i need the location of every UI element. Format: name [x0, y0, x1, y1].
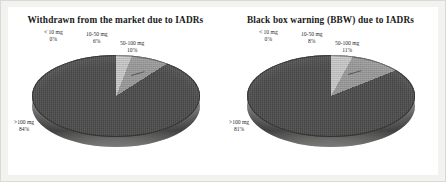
pie-label-50-100mg-pct: 10% — [120, 47, 144, 54]
chart-title-withdrawn: Withdrawn from the market due to IADRs — [8, 15, 223, 25]
pie-label-10-50mg: 10-50 mg 8% — [301, 31, 323, 45]
chart-panel-withdrawn: Withdrawn from the market due to IADRs <… — [8, 7, 223, 175]
pie-label-gt100mg-name: >100 mg — [14, 119, 34, 125]
pie-label-10-50mg-pct: 8% — [301, 38, 323, 45]
pie-label-lt10mg-name: < 10 mg — [259, 29, 278, 35]
pie-label-10-50mg-pct: 6% — [86, 38, 108, 45]
figure-canvas: Withdrawn from the market due to IADRs <… — [8, 7, 438, 175]
pie-chart-withdrawn — [30, 53, 202, 157]
pie-label-50-100mg: 50-100 mg 10% — [120, 40, 144, 54]
pie-label-50-100mg-name: 50-100 mg — [335, 40, 359, 46]
pie-label-50-100mg: 50-100 mg 11% — [335, 40, 359, 54]
pie-label-10-50mg-name: 10-50 mg — [86, 31, 108, 37]
pie-label-10-50mg-name: 10-50 mg — [301, 31, 323, 37]
pie-label-50-100mg-pct: 11% — [335, 47, 359, 54]
pie-label-50-100mg-name: 50-100 mg — [120, 40, 144, 46]
pie-label-lt10mg: < 10 mg 0% — [44, 29, 63, 43]
pie-label-gt100mg-name: >100 mg — [229, 119, 249, 125]
pie-slices — [32, 55, 200, 137]
pie-chart-bbw — [245, 53, 417, 157]
pie-label-gt100mg: >100 mg 81% — [229, 119, 249, 133]
pie-label-lt10mg-pct: 0% — [259, 36, 278, 43]
pie-label-lt10mg: < 10 mg 0% — [259, 29, 278, 43]
pie-top-surface — [32, 55, 200, 137]
pie-label-10-50mg: 10-50 mg 6% — [86, 31, 108, 45]
chart-panel-bbw: Black box warning (BBW) due to IADRs < 1… — [223, 7, 438, 175]
chart-title-bbw: Black box warning (BBW) due to IADRs — [223, 15, 438, 25]
pie-top-surface — [247, 55, 415, 137]
figure-container: Withdrawn from the market due to IADRs <… — [0, 0, 446, 182]
pie-label-lt10mg-pct: 0% — [44, 36, 63, 43]
pie-label-gt100mg-pct: 81% — [229, 126, 249, 133]
pie-slices — [247, 55, 415, 137]
pie-label-gt100mg: >100 mg 84% — [14, 119, 34, 133]
pie-label-gt100mg-pct: 84% — [14, 126, 34, 133]
pie-label-lt10mg-name: < 10 mg — [44, 29, 63, 35]
